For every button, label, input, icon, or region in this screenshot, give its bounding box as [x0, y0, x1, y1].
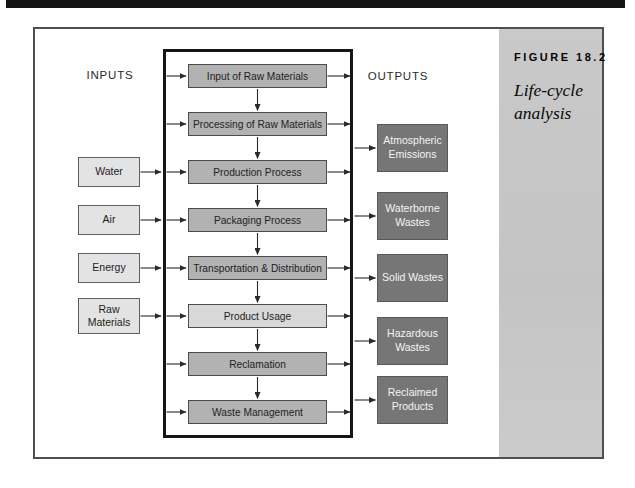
system-boundary-box [163, 49, 353, 438]
output-waterborne-wastes: Waterborne Wastes [377, 192, 448, 240]
outputs-column-header: OUTPUTS [358, 70, 438, 82]
figure-caption: Life-cycle analysis [514, 79, 592, 125]
figure-caption-line1: Life-cycle [514, 79, 592, 102]
step-packaging-process: Packaging Process [188, 208, 327, 232]
scanned-figure-page: INPUTS OUTPUTS Input of Raw Materials Pr… [0, 0, 635, 488]
figure-number-label: FIGURE 18.2 [514, 51, 592, 63]
output-solid-wastes: Solid Wastes [377, 254, 448, 302]
step-input-of-raw-materials: Input of Raw Materials [188, 64, 327, 88]
figure-caption-line2: analysis [514, 102, 592, 125]
output-hazardous-wastes: Hazardous Wastes [377, 317, 448, 365]
input-raw-materials: Raw Materials [78, 298, 140, 334]
page-top-rule [6, 0, 625, 8]
step-production-process: Production Process [188, 160, 327, 184]
inputs-column-header: INPUTS [70, 69, 150, 81]
step-processing-of-raw-materials: Processing of Raw Materials [188, 112, 327, 136]
figure-sidebar: FIGURE 18.2 Life-cycle analysis [499, 29, 602, 457]
input-water: Water [78, 157, 140, 187]
step-product-usage: Product Usage [188, 304, 327, 328]
input-air: Air [78, 205, 140, 235]
output-reclaimed-products: Reclaimed Products [377, 376, 448, 424]
step-waste-management: Waste Management [188, 400, 327, 424]
step-transportation-distribution: Transportation & Distribution [188, 256, 327, 280]
input-energy: Energy [78, 253, 140, 283]
output-atmospheric-emissions: Atmospheric Emissions [377, 124, 448, 172]
step-reclamation: Reclamation [188, 352, 327, 376]
